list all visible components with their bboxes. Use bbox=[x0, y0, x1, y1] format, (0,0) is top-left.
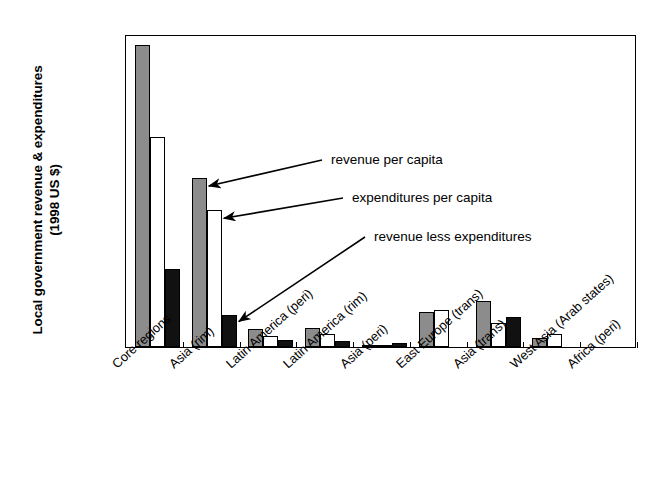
y-axis-title: Local government revenue & expenditures … bbox=[29, 50, 63, 350]
bar-group bbox=[134, 36, 180, 347]
bar bbox=[222, 315, 237, 347]
bar bbox=[377, 345, 392, 347]
annotation-label: revenue less expenditures bbox=[374, 229, 532, 244]
annotation-label: expenditures per capita bbox=[352, 190, 492, 205]
x-tick-mark bbox=[637, 342, 638, 348]
bar bbox=[506, 317, 521, 347]
bar-group bbox=[191, 36, 237, 347]
bar bbox=[165, 269, 180, 347]
bar-group bbox=[532, 36, 578, 347]
y-axis-title-line1: Local government revenue & expenditures bbox=[30, 65, 45, 334]
bar-chart: Local government revenue & expenditures … bbox=[0, 0, 649, 491]
bar bbox=[278, 340, 293, 347]
bar-group bbox=[248, 36, 294, 347]
bar bbox=[192, 178, 207, 347]
bar bbox=[135, 45, 150, 347]
bar bbox=[392, 343, 407, 347]
y-axis-title-line2: (1998 US $) bbox=[46, 50, 63, 350]
bar bbox=[335, 341, 350, 347]
annotation-label: revenue per capita bbox=[331, 152, 443, 167]
